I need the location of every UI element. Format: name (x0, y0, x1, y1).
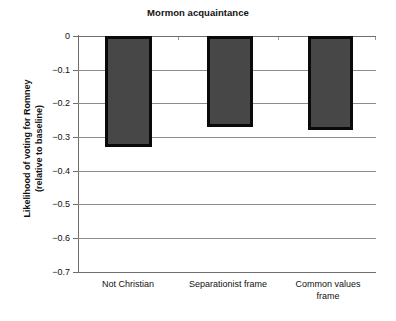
gridline-4 (78, 171, 376, 172)
x-axis-label-common-values-frame-text: Common values (295, 279, 360, 289)
bar-separationist-frame[interactable] (207, 36, 253, 127)
plot-area (78, 36, 376, 272)
y-tick-label-0: 0 (10, 32, 70, 41)
x-axis-label-common-values-frame-text-2: frame (316, 291, 339, 301)
y-tick-label-1: −0.1 (10, 66, 70, 75)
x-axis-label-separationist-frame: Separationist frame (178, 279, 278, 291)
chart-figure: Mormon acquaintance Likelihood of voting… (0, 0, 396, 321)
x-axis-label-not-christian: Not Christian (78, 279, 178, 291)
y-tick-label-4: −0.4 (10, 167, 70, 176)
x-axis-label-common-values-frame: Common values frame (278, 279, 378, 302)
y-tick-label-7: −0.7 (10, 268, 70, 277)
x-axis-label-not-christian-text: Not Christian (102, 279, 154, 289)
x-axis-line (78, 272, 376, 273)
gridline-6 (78, 238, 376, 239)
gridline-5 (78, 204, 376, 205)
y-tick-label-6: −0.6 (10, 234, 70, 243)
y-tick-label-3: −0.3 (10, 133, 70, 142)
y-tick-label-5: −0.5 (10, 200, 70, 209)
bar-not-christian[interactable] (105, 36, 152, 147)
bar-common-values-frame[interactable] (308, 36, 353, 130)
chart-title: Mormon acquaintance (0, 7, 396, 18)
x-axis-label-separationist-frame-text: Separationist frame (189, 279, 267, 289)
y-tick-label-2: −0.2 (10, 99, 70, 108)
